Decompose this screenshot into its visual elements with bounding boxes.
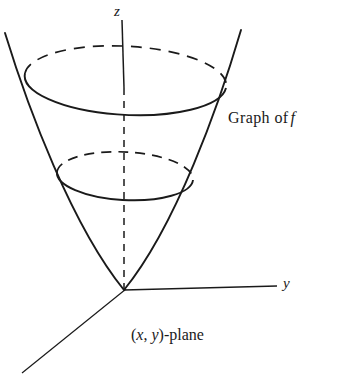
- upper-ellipse-front: [25, 73, 226, 115]
- z-axis-solid: [122, 20, 124, 88]
- xy-plane-y: y: [151, 326, 158, 343]
- graph-of-f-label: Graph off: [228, 110, 295, 126]
- graph-of-f-function: f: [289, 109, 296, 126]
- xy-plane-suffix: )-plane: [159, 326, 204, 343]
- y-axis-label: y: [283, 276, 290, 291]
- y-axis: [124, 286, 277, 290]
- z-axis-label: z: [114, 4, 120, 19]
- graph-of-f-prefix: Graph of: [228, 109, 289, 126]
- lower-ellipse-front: [57, 172, 193, 200]
- upper-ellipse-back: [25, 46, 226, 88]
- lower-ellipse-back: [57, 152, 193, 180]
- xy-plane-label: (x, y)-plane: [131, 327, 204, 343]
- paraboloid-figure: [0, 0, 339, 378]
- x-axis: [22, 289, 126, 373]
